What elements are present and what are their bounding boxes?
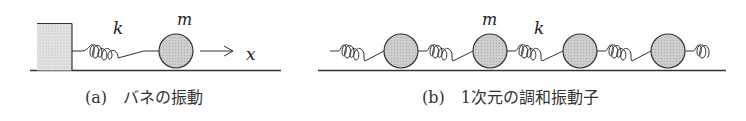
mass-b-3: [563, 34, 597, 68]
mass-a: [159, 34, 193, 68]
mass-label-a: m: [177, 12, 192, 28]
mass-b-2: [473, 34, 507, 68]
mass-b-4: [651, 34, 685, 68]
mass-label-b: m: [482, 12, 497, 28]
panel-b-diagram: [318, 34, 726, 71]
axis-label-x: x: [246, 46, 256, 63]
caption-b: (b) 1次元の調和振動子: [422, 90, 599, 106]
spring-b-1: [418, 45, 473, 61]
caption-a: (a) バネの振動: [85, 90, 203, 106]
spring-b-4: [685, 45, 709, 58]
spring-a: [72, 45, 159, 60]
panel-a-diagram: [30, 24, 281, 71]
spring-b-3: [597, 45, 651, 61]
spring-b-0: [330, 45, 384, 61]
wall: [37, 24, 72, 71]
spring-b-2: [507, 45, 563, 61]
spring-constant-label-b: k: [534, 20, 544, 37]
mass-b-1: [384, 34, 418, 68]
spring-constant-label-a: k: [113, 20, 123, 37]
